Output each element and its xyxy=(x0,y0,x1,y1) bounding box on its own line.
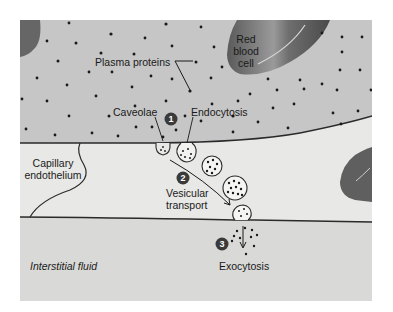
caveola xyxy=(156,143,170,155)
label-endocytosis: Endocytosis xyxy=(191,106,248,118)
exocytosis-vesicle xyxy=(233,205,251,220)
endocytosis-vesicle xyxy=(177,143,196,162)
capillary-lumen-region xyxy=(20,20,372,143)
step-number-2: 2 xyxy=(177,172,189,184)
label-vesicular-line2: transport xyxy=(166,199,207,211)
label-capillary-line2: endothelium xyxy=(22,169,84,181)
capillary-transcytosis-diagram: 1 2 3 Plasma proteins Red blood cell Cav… xyxy=(0,0,393,312)
label-interstitial-fluid: Interstitial fluid xyxy=(30,260,97,272)
label-rbc-line2: blood xyxy=(226,45,266,57)
step-number-3: 3 xyxy=(216,238,228,250)
label-vesicular-line1: Vesicular xyxy=(166,187,209,199)
label-caveolae: Caveolae xyxy=(113,106,157,118)
transport-vesicle xyxy=(202,156,222,176)
label-exocytosis: Exocytosis xyxy=(219,260,269,272)
label-capillary-line1: Capillary xyxy=(22,157,84,169)
label-rbc-line1: Red xyxy=(226,33,266,45)
label-rbc-line3: cell xyxy=(226,57,266,69)
transport-vesicle xyxy=(223,176,247,200)
step-number-1: 1 xyxy=(165,113,177,125)
label-plasma-proteins: Plasma proteins xyxy=(95,56,170,68)
